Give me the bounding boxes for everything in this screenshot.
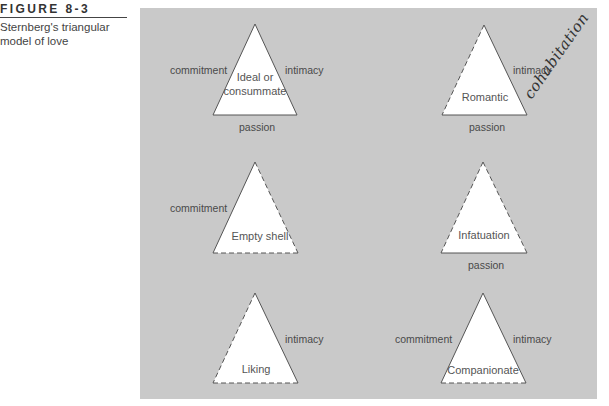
label-intimacy: intimacy — [285, 333, 324, 345]
triangle-name-infatuation: Infatuation — [444, 228, 524, 242]
triangle-name-romantic: Romantic — [445, 90, 525, 104]
label-passion: passion — [469, 121, 505, 133]
ideal-line2: consummate — [215, 84, 295, 98]
triangle-name-empty-shell: Empty shell — [220, 229, 300, 243]
triangle-name-ideal: Ideal or consummate — [215, 70, 295, 98]
triangle-name-companionate: Companionate — [443, 363, 523, 377]
label-commitment: commitment — [170, 202, 227, 214]
triangles-svg — [0, 0, 609, 406]
label-intimacy: intimacy — [513, 333, 552, 345]
label-passion: passion — [239, 121, 275, 133]
label-passion: passion — [468, 259, 504, 271]
triangle-name-liking: Liking — [216, 362, 296, 376]
ideal-line1: Ideal or — [215, 70, 295, 84]
label-commitment: commitment — [395, 333, 452, 345]
